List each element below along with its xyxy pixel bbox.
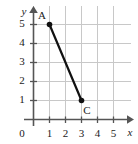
xtick-label-1: 1	[47, 127, 53, 139]
ytick-label-3: 3	[19, 55, 25, 67]
y-axis-label: y	[21, 5, 27, 17]
ytick-label-1: 1	[19, 93, 25, 105]
xtick-label-5: 5	[111, 127, 117, 139]
chart-canvas: 1 2 3 4 5 1 2 3 4 5 0 y x A C	[0, 0, 138, 144]
ytick-label-4: 4	[19, 36, 25, 48]
coordinate-plane-figure: 1 2 3 4 5 1 2 3 4 5 0 y x A C	[0, 0, 138, 144]
ytick-label-2: 2	[19, 74, 25, 86]
xtick-label-3: 3	[79, 127, 85, 139]
data-point-a	[47, 22, 53, 28]
x-axis-label: x	[127, 126, 133, 138]
xtick-label-4: 4	[95, 127, 101, 139]
ytick-label-5: 5	[19, 17, 25, 29]
point-label-a: A	[38, 9, 46, 21]
xtick-label-2: 2	[63, 127, 69, 139]
data-point-c	[79, 98, 85, 104]
origin-label: 0	[19, 127, 25, 139]
point-label-c: C	[83, 104, 90, 116]
